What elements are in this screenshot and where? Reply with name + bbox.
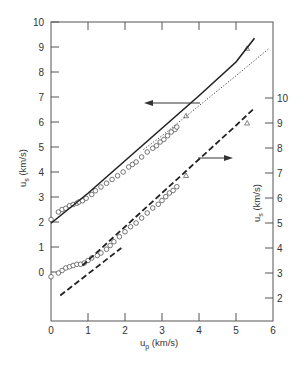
x-tick-label: 5 (233, 325, 239, 336)
data-point-circle (112, 239, 117, 244)
data-point-circle (110, 177, 115, 182)
data-point-circle (104, 247, 109, 252)
data-point-circle (171, 188, 176, 193)
y-left-tick-label: 6 (38, 117, 44, 128)
data-point-circle (145, 211, 150, 216)
y-right-tick-label: 4 (277, 243, 283, 254)
data-point-circle (108, 243, 113, 248)
y-axis-right-label: us (km/s) (251, 184, 264, 222)
x-tick-label: 3 (159, 325, 165, 336)
fit-line (60, 248, 121, 296)
y-right-tick-label: 2 (277, 293, 283, 304)
left-arrow-icon (144, 100, 200, 106)
data-point-circle (139, 216, 144, 221)
y-right-tick-label: 3 (277, 268, 283, 279)
y-right-tick-label: 5 (277, 218, 283, 229)
y-right-tick-label: 8 (277, 143, 283, 154)
y-left-tick-label: 4 (38, 167, 44, 178)
data-point-circle (165, 133, 170, 138)
data-point-circle (139, 155, 144, 160)
chart: 01234560123456789102345678910 up (km/s) … (0, 0, 304, 365)
data-point-circle (115, 173, 120, 178)
data-point-circle (134, 221, 139, 226)
y-right-tick-label: 7 (277, 168, 283, 179)
y-left-tick-label: 9 (38, 42, 44, 53)
y-right-tick-label: 10 (277, 93, 289, 104)
y-left-tick-label: 3 (38, 192, 44, 203)
data-point-circle (49, 274, 54, 279)
data-point-circle (160, 198, 165, 203)
y-left-tick-label: 5 (38, 142, 44, 153)
data-point-circle (156, 202, 161, 207)
y-right-tick-label: 9 (277, 118, 283, 129)
axis-arrows (144, 100, 233, 161)
x-tick-label: 1 (85, 325, 91, 336)
y-left-tick-label: 10 (33, 17, 45, 28)
fit-line (144, 48, 270, 149)
data-point-circle (99, 251, 104, 256)
y-left-tick-label: 1 (38, 242, 44, 253)
data-point-circle (150, 206, 155, 211)
y-left-tick-label: 2 (38, 217, 44, 228)
data-point-circle (145, 150, 150, 155)
fit-line (51, 38, 255, 223)
x-tick-label: 2 (122, 325, 128, 336)
y-right-tick-label: 6 (277, 193, 283, 204)
axis-ticks: 01234560123456789102345678910 (33, 17, 289, 336)
data-point-circle (134, 160, 139, 165)
data-point-circle (123, 229, 128, 234)
y-left-tick-label: 0 (38, 267, 44, 278)
fit-line (82, 108, 254, 266)
data-point-circle (163, 194, 168, 199)
data-point-circle (104, 181, 109, 186)
series-layer (49, 38, 270, 295)
x-axis-label: up (km/s) (140, 337, 178, 351)
data-point-circle (89, 192, 94, 197)
y-left-tick-label: 7 (38, 92, 44, 103)
data-point-triangle (245, 121, 250, 126)
data-point-circle (121, 170, 126, 175)
data-point-circle (154, 143, 159, 148)
data-point-circle (99, 185, 104, 190)
data-point-circle (117, 234, 122, 239)
data-point-circle (128, 224, 133, 229)
x-tick-label: 0 (48, 325, 54, 336)
data-point-circle (162, 137, 167, 142)
x-tick-label: 6 (270, 325, 276, 336)
y-left-tick-label: 8 (38, 67, 44, 78)
y-axis-left-label: us (km/s) (17, 149, 30, 187)
data-point-circle (175, 184, 180, 189)
x-tick-label: 4 (196, 325, 202, 336)
